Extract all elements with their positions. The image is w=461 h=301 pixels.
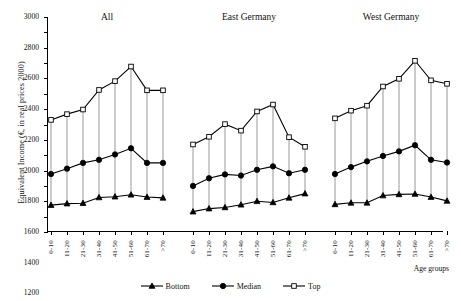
data-point-marker [271, 102, 276, 107]
data-point-marker [428, 157, 433, 162]
data-point-marker [380, 153, 385, 158]
series-layer [47, 17, 443, 232]
x-axis-tick-label: 21-30 [222, 240, 229, 257]
panel-series [190, 102, 308, 214]
plot-area: 2004006008001000120014001600180020002200… [47, 17, 443, 232]
data-point-marker [64, 166, 69, 171]
x-axis-tick-label: 11-20 [206, 240, 213, 257]
x-axis-tick-label: 51-60 [412, 240, 419, 257]
data-point-marker [444, 160, 449, 165]
y-axis-tick-label: 1800 [24, 197, 39, 205]
data-point-marker [49, 118, 54, 123]
data-point-marker [191, 142, 196, 147]
data-point-marker [48, 171, 53, 176]
x-axis-tick-label: 31-40 [238, 240, 245, 257]
data-point-marker [333, 116, 338, 121]
chart-root: Equivalent Income (€, in real prices 200… [0, 0, 461, 301]
panel-title: West Germany [363, 12, 419, 22]
x-axis-tick-label: 51-60 [128, 240, 135, 257]
x-axis-tick-label: 41-50 [254, 240, 261, 257]
x-axis-tick-label: 41-50 [112, 240, 119, 257]
x-axis-tick-label: 61-70 [428, 240, 435, 257]
x-axis-tick-label: 31-40 [96, 240, 103, 257]
x-axis-tick-label: 21-30 [80, 240, 87, 257]
data-point-marker [396, 149, 401, 154]
x-axis-tick-label: >70 [444, 240, 451, 252]
y-axis-tick-label: 2000 [24, 167, 39, 175]
data-point-marker [381, 84, 386, 89]
panel-series [48, 64, 166, 207]
data-point-marker [220, 283, 225, 288]
data-point-marker [161, 88, 166, 93]
y-axis-tick-label: 1400 [24, 259, 39, 267]
data-point-marker [207, 134, 212, 139]
x-axis-tick-label: 61-70 [286, 240, 293, 257]
legend-label: Median [237, 282, 261, 291]
x-axis-tick-label: 0-10 [332, 240, 339, 254]
data-point-marker [332, 171, 337, 176]
x-axis-tick-label: 21-30 [364, 240, 371, 257]
y-axis-tick-label: 2800 [24, 44, 39, 52]
data-point-marker [112, 152, 117, 157]
y-axis-tick-label: 1600 [24, 228, 39, 236]
data-point-marker [254, 167, 259, 172]
legend-marker-circle-icon [212, 281, 234, 291]
data-point-marker [302, 191, 308, 196]
y-axis-tick-label: 2400 [24, 105, 39, 113]
data-point-marker [302, 167, 307, 172]
data-point-marker [397, 77, 402, 82]
data-point-marker [206, 176, 211, 181]
data-point-marker [239, 128, 244, 133]
chart-legend: BottomMedianTop [0, 281, 461, 291]
data-point-marker [190, 183, 195, 188]
data-point-marker [364, 159, 369, 164]
data-point-marker [348, 164, 353, 169]
data-point-marker [445, 82, 450, 87]
data-point-marker [223, 122, 228, 127]
data-point-marker [349, 108, 354, 113]
x-axis-tick-label: 31-40 [380, 240, 387, 257]
panel-title: All [101, 12, 113, 22]
data-point-marker [413, 58, 418, 63]
data-point-marker [222, 172, 227, 177]
x-axis-title: Age groups [414, 264, 449, 273]
data-point-marker [96, 157, 101, 162]
data-point-marker [160, 160, 165, 165]
x-axis-tick-label: 11-20 [64, 240, 71, 257]
data-point-marker [144, 160, 149, 165]
x-axis-tick-label: 41-50 [396, 240, 403, 257]
data-point-marker [81, 107, 86, 112]
series-line-top [193, 105, 305, 147]
y-axis-tick-label: 3000 [24, 13, 39, 21]
x-axis-tick-label: >70 [302, 240, 309, 252]
data-point-marker [365, 103, 370, 108]
panel-title: East Germany [222, 12, 276, 22]
y-axis-tick-label: 2200 [24, 136, 39, 144]
data-point-marker [97, 88, 102, 93]
data-point-marker [145, 88, 150, 93]
data-point-marker [412, 143, 417, 148]
x-axis-tick: >70 [447, 231, 448, 235]
data-point-marker [287, 135, 292, 140]
legend-label: Bottom [166, 282, 190, 291]
legend-item-median[interactable]: Median [212, 281, 261, 291]
x-axis-tick-label: 51-60 [270, 240, 277, 257]
x-axis-tick-label: >70 [160, 240, 167, 252]
y-axis-tick: 200 [44, 232, 48, 233]
legend-marker-triangle-icon [141, 281, 163, 291]
y-axis-tick-label: 2600 [24, 75, 39, 83]
legend-label: Top [308, 282, 320, 291]
data-point-marker [238, 173, 243, 178]
x-axis-tick-label: 0-10 [190, 240, 197, 254]
legend-item-bottom[interactable]: Bottom [141, 281, 190, 291]
data-point-marker [128, 192, 134, 197]
data-point-marker [429, 78, 434, 83]
data-point-marker [270, 164, 275, 169]
x-axis-tick-label: 61-70 [144, 240, 151, 257]
data-point-marker [65, 112, 70, 117]
data-point-marker [128, 146, 133, 151]
panel-series [332, 58, 450, 206]
legend-item-top[interactable]: Top [283, 281, 320, 291]
data-point-marker [303, 144, 308, 149]
data-point-marker [113, 79, 118, 84]
